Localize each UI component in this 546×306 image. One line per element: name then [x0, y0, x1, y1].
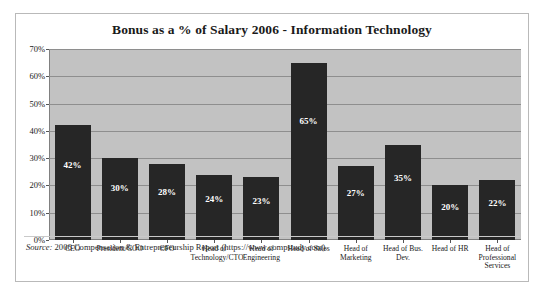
gridline — [49, 131, 521, 132]
bar: 65% — [291, 63, 327, 240]
y-axis-tick-mark — [46, 185, 49, 186]
bar: 28% — [149, 164, 185, 240]
bar: 30% — [102, 158, 138, 240]
x-axis-tick-mark — [356, 240, 357, 243]
gridline — [49, 104, 521, 105]
bar-value-label: 22% — [479, 198, 515, 208]
bar-value-label: 28% — [149, 187, 185, 197]
y-axis-tick-label: 50% — [29, 99, 45, 109]
bar-value-label: 30% — [102, 183, 138, 193]
source-divider — [24, 236, 520, 237]
source-note: Source: 2006 Compensation & Entrepreneur… — [26, 242, 327, 252]
y-axis-tick-label: 30% — [29, 153, 45, 163]
y-axis-tick-mark — [46, 76, 49, 77]
y-axis-tick-mark — [46, 213, 49, 214]
y-axis-tick-mark — [46, 158, 49, 159]
y-axis-tick-label: 40% — [29, 126, 45, 136]
y-axis-tick-mark — [46, 104, 49, 105]
bar-value-label: 20% — [432, 202, 468, 212]
chart-figure: Bonus as a % of Salary 2006 - Informatio… — [15, 13, 529, 282]
bar-value-label: 65% — [291, 116, 327, 126]
y-axis-tick-label: 20% — [29, 180, 45, 190]
x-axis-category-label: Head of HR — [427, 245, 474, 254]
bar-value-label: 24% — [196, 194, 232, 204]
plot-wrap: 0%10%20%30%40%50%60%70% 42%30%28%24%23%6… — [49, 49, 521, 240]
bar-value-label: 42% — [55, 160, 91, 170]
y-axis-tick-mark — [46, 240, 49, 241]
y-axis-tick-label: 10% — [29, 208, 45, 218]
chart-title: Bonus as a % of Salary 2006 - Informatio… — [16, 22, 528, 38]
bar: 27% — [338, 166, 374, 240]
x-axis-tick-mark — [497, 240, 498, 243]
y-axis-tick-label: 60% — [29, 71, 45, 81]
bar: 20% — [432, 185, 468, 240]
source-label: Source: — [26, 242, 52, 252]
bar-value-label: 35% — [385, 173, 421, 183]
gridline — [49, 76, 521, 77]
bar-value-label: 27% — [338, 188, 374, 198]
x-axis-category-label: Head of Professional Services — [474, 245, 521, 271]
x-axis-category-label: Head of Bus. Dev. — [379, 245, 426, 262]
bar: 22% — [479, 180, 515, 240]
bar: 35% — [385, 145, 421, 241]
bar: 23% — [243, 177, 279, 240]
y-axis-tick-mark — [46, 131, 49, 132]
bar-value-label: 23% — [243, 196, 279, 206]
bar: 24% — [196, 175, 232, 240]
y-axis-tick-label: 70% — [29, 44, 45, 54]
source-citation: 2006 Compensation & Entrepreneurship Rep… — [52, 242, 327, 252]
y-axis-tick-mark — [46, 49, 49, 50]
x-axis-category-label: Head of Marketing — [332, 245, 379, 262]
gridline — [49, 49, 521, 50]
bar: 42% — [55, 125, 91, 240]
x-axis-tick-mark — [403, 240, 404, 243]
x-axis-tick-mark — [450, 240, 451, 243]
